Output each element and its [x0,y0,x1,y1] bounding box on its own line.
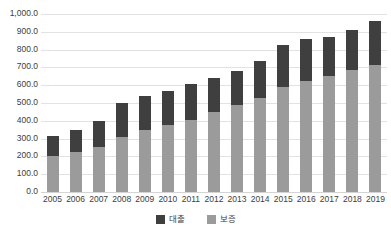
bar-segment[interactable] [346,30,358,70]
bar-segment[interactable] [208,78,220,112]
bar-segment[interactable] [162,125,174,192]
y-axis-tick-label: 800.0 [0,45,38,54]
y-axis-tick-label: 100.0 [0,169,38,178]
x-axis-tick-label: 2014 [249,194,272,205]
y-axis-tick-label: 200.0 [0,151,38,160]
bar-group[interactable] [70,14,82,192]
bar-group[interactable] [208,14,220,192]
y-axis-tick-label: 1,000.0 [0,9,38,18]
bar-group[interactable] [185,14,197,192]
x-axis-tick-label: 2013 [226,194,249,205]
y-axis-tick-label: 500.0 [0,98,38,107]
x-axis-tick-label: 2019 [364,194,387,205]
x-axis-tick-label: 2011 [179,194,202,205]
y-axis-tick-label: 0.0 [0,187,38,196]
bar-group[interactable] [254,14,266,192]
bar-segment[interactable] [277,87,289,192]
legend-label: 보증 [220,214,236,224]
legend-swatch-icon [207,215,216,224]
gridline [41,192,387,193]
bar-segment[interactable] [185,120,197,192]
x-axis-tick-label: 2018 [341,194,364,205]
bar-segment[interactable] [208,112,220,192]
bar-segment[interactable] [254,61,266,98]
x-axis-tick-label: 2006 [64,194,87,205]
bar-segment[interactable] [369,65,381,192]
x-axis-tick-label: 2016 [295,194,318,205]
bar-segment[interactable] [277,45,289,87]
bar-segment[interactable] [231,71,243,105]
x-axis-tick-label: 2010 [156,194,179,205]
bar-group[interactable] [300,14,312,192]
bar-segment[interactable] [323,37,335,77]
legend-swatch-icon [156,215,165,224]
bar-group[interactable] [369,14,381,192]
bar-segment[interactable] [323,76,335,192]
stacked-bar-chart: 1,000.0900.0800.0700.0600.0500.0400.0300… [0,0,391,233]
bar-group[interactable] [93,14,105,192]
bar-group[interactable] [323,14,335,192]
bar-segment[interactable] [70,152,82,192]
y-axis-tick-label: 400.0 [0,116,38,125]
bar-segment[interactable] [369,21,381,64]
bar-segment[interactable] [116,137,128,192]
x-axis-tick-label: 2008 [110,194,133,205]
chart-legend: 대출보증 [0,214,391,224]
x-axis-tick-label: 2005 [41,194,64,205]
bar-segment[interactable] [346,70,358,192]
y-axis-tick-label: 600.0 [0,80,38,89]
bar-segment[interactable] [93,147,105,192]
bar-segment[interactable] [139,96,151,130]
legend-label: 대출 [169,214,185,224]
bar-group[interactable] [346,14,358,192]
bars-layer [41,14,387,192]
bar-group[interactable] [277,14,289,192]
bar-segment[interactable] [300,81,312,192]
bar-segment[interactable] [47,156,59,192]
x-axis-tick-label: 2012 [202,194,225,205]
x-axis-tick-label: 2009 [133,194,156,205]
bar-segment[interactable] [139,130,151,192]
y-axis-tick-label: 900.0 [0,27,38,36]
bar-segment[interactable] [93,121,105,147]
x-axis-tick-label: 2007 [87,194,110,205]
y-axis-tick-label: 300.0 [0,134,38,143]
bar-segment[interactable] [300,39,312,81]
bar-group[interactable] [47,14,59,192]
bar-segment[interactable] [47,136,59,156]
x-axis-labels: 2005200620072008200920102011201220132014… [41,194,387,208]
bar-segment[interactable] [116,103,128,137]
bar-segment[interactable] [231,105,243,192]
bar-segment[interactable] [185,84,197,120]
x-axis-tick-label: 2015 [272,194,295,205]
bar-segment[interactable] [70,130,82,153]
bar-group[interactable] [231,14,243,192]
plot-area [41,14,387,192]
bar-segment[interactable] [254,98,266,192]
y-axis-tick-label: 700.0 [0,62,38,71]
y-axis-labels: 1,000.0900.0800.0700.0600.0500.0400.0300… [0,0,38,233]
bar-group[interactable] [162,14,174,192]
legend-item[interactable]: 보증 [207,214,236,224]
bar-group[interactable] [116,14,128,192]
legend-item[interactable]: 대출 [156,214,185,224]
bar-group[interactable] [139,14,151,192]
x-axis-tick-label: 2017 [318,194,341,205]
bar-segment[interactable] [162,91,174,125]
